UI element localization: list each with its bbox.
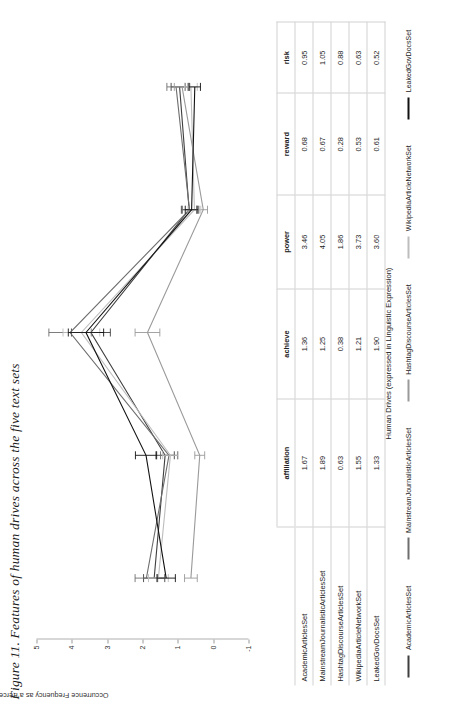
table-cell: 0.68 [295, 93, 313, 195]
table-row: HashtagDiscourseArticlesSet0.630.381.860… [331, 22, 349, 686]
table-cell: 1.55 [349, 399, 367, 527]
legend-label: LeakedGovDocsSet [404, 29, 411, 91]
y-axis-tick-mark [142, 639, 143, 643]
table-cell: 1.36 [295, 288, 313, 398]
legend-label: MainstreamJournalisticArticlesSet [404, 427, 411, 532]
series-line [70, 86, 189, 577]
table-row-label: HashtagDiscourseArticlesSet [331, 527, 349, 686]
legend-swatch-icon [407, 655, 409, 677]
table-column-header: power [277, 194, 295, 288]
legend-item[interactable]: LeakedGovDocsSet [404, 29, 411, 118]
legend-swatch-icon [407, 97, 409, 119]
table-cell: 0.63 [331, 399, 349, 527]
figure-page: Figure 11. Features of human drives acro… [0, 0, 464, 707]
table-header-row: affiliationachievepowerrewardrisk [277, 22, 295, 686]
table-cell: 1.67 [295, 399, 313, 527]
table-cell: 1.33 [367, 399, 385, 527]
y-axis-tick-label: 5 [33, 645, 40, 685]
table-cell: 0.67 [313, 93, 331, 195]
table-row: AcademicArticlesSet1.671.363.460.680.95 [295, 22, 313, 686]
series-line [85, 86, 194, 577]
legend-label: HashtagDiscourseArticlesSet [404, 284, 411, 375]
table-cell: 1.21 [349, 288, 367, 398]
y-axis-tick-label: 2 [139, 645, 146, 685]
series-line [147, 86, 203, 577]
table-cell: 1.25 [313, 288, 331, 398]
x-axis-title: Human Drives (expressed in Linguistic Ex… [383, 21, 392, 685]
table-cell: 0.52 [367, 22, 385, 93]
y-axis-tick-mark [71, 639, 72, 643]
table-cell: 1.05 [313, 22, 331, 93]
plot-region: 543210-1 [36, 25, 248, 639]
table-cell: 4.05 [313, 194, 331, 288]
series-line [81, 86, 194, 577]
legend-swatch-icon [407, 379, 409, 401]
table-cell: 0.61 [367, 93, 385, 195]
table-cell: 0.63 [349, 22, 367, 93]
legend-swatch-icon [407, 537, 409, 559]
rotated-figure-canvas: Figure 11. Features of human drives acro… [0, 0, 464, 707]
table-column-header: risk [277, 22, 295, 93]
y-axis-tick-label: 3 [103, 645, 110, 685]
table-cell: 3.60 [367, 194, 385, 288]
table-row: LeakedGovDocsSet1.331.903.600.610.52 [367, 22, 385, 686]
y-axis-tick-mark [248, 639, 249, 643]
table-row-label: MainstreamJournalisticArticlesSet [313, 527, 331, 686]
table-cell: 1.90 [367, 288, 385, 398]
legend-item[interactable]: HashtagDiscourseArticlesSet [404, 284, 411, 402]
table-corner [277, 527, 295, 686]
legend-label: AcademicArticlesSet [404, 585, 411, 649]
legend-swatch-icon [407, 236, 409, 258]
table-cell: 0.53 [349, 93, 367, 195]
series-line [90, 86, 188, 577]
y-axis-tick-mark [36, 639, 37, 643]
table-row: WikipediaArticleNetworkSet1.551.213.730.… [349, 22, 367, 686]
table-row-label: WikipediaArticleNetworkSet [349, 527, 367, 686]
table-cell: 1.86 [331, 194, 349, 288]
table-column-header: achieve [277, 288, 295, 398]
table-row-label: AcademicArticlesSet [295, 527, 313, 686]
table-cell: 0.28 [331, 93, 349, 195]
table-column-header: reward [277, 93, 295, 195]
y-axis-tick-mark [177, 639, 178, 643]
table-cell: 1.89 [313, 399, 331, 527]
table-cell: 0.88 [331, 22, 349, 93]
y-axis-tick-label: 1 [174, 645, 181, 685]
table-row: MainstreamJournalisticArticlesSet1.891.2… [313, 22, 331, 686]
y-axis-tick-mark [107, 639, 108, 643]
chart-legend: AcademicArticlesSetMainstreamJournalisti… [404, 21, 411, 685]
y-axis-tick-label: 4 [68, 645, 75, 685]
figure-caption: Figure 11. Features of human drives acro… [6, 363, 22, 699]
legend-item[interactable]: MainstreamJournalisticArticlesSet [404, 427, 411, 559]
y-axis-tick-label: 0 [209, 645, 216, 685]
table-row-label: LeakedGovDocsSet [367, 527, 385, 686]
legend-label: WikipediaArticleNetworkSet [404, 145, 411, 231]
table-cell: 3.46 [295, 194, 313, 288]
legend-item[interactable]: WikipediaArticleNetworkSet [404, 145, 411, 258]
chart-area: Occurrence Frequency as a Percentage 543… [36, 21, 272, 685]
legend-item[interactable]: AcademicArticlesSet [404, 585, 411, 676]
y-axis-title: Occurrence Frequency as a Percentage [0, 690, 108, 699]
y-axis-tick-label: -1 [245, 645, 252, 685]
data-table: affiliationachievepowerrewardrisk Academ… [276, 21, 385, 685]
table-body: AcademicArticlesSet1.671.363.460.680.95M… [295, 22, 385, 686]
series-lines [36, 25, 248, 639]
table-cell: 3.73 [349, 194, 367, 288]
table-column-header: affiliation [277, 399, 295, 527]
y-axis-tick-mark [213, 639, 214, 643]
table-cell: 0.95 [295, 22, 313, 93]
table-cell: 0.38 [331, 288, 349, 398]
